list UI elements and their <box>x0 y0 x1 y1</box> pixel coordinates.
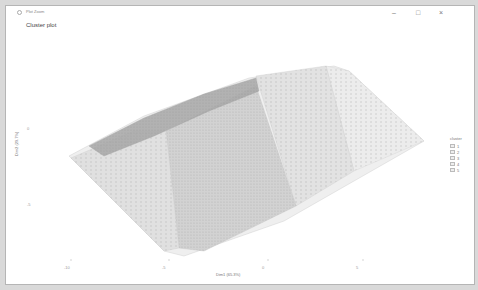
legend-title: cluster <box>450 136 478 141</box>
y-tick: -5 <box>27 202 31 207</box>
legend-key <box>450 144 455 148</box>
x-tick: 0 <box>262 265 264 270</box>
legend-key <box>450 168 455 172</box>
app-icon <box>17 10 22 15</box>
maximize-button[interactable]: □ <box>413 8 423 18</box>
legend: cluster 1 2 3 4 5 <box>450 136 478 173</box>
chart-title: Cluster plot <box>26 22 56 28</box>
close-button[interactable]: × <box>436 8 446 18</box>
plot-zoom-window: Plot Zoom – □ × Cluster plot <box>5 5 475 285</box>
cluster-plot-area <box>34 36 444 261</box>
legend-key <box>450 156 455 160</box>
x-tick: 5 <box>356 265 358 270</box>
minimize-button[interactable]: – <box>389 8 399 18</box>
legend-key <box>450 150 455 154</box>
title-bar: Plot Zoom – □ × <box>6 6 474 20</box>
y-axis-label: Dim2 (29.7%) <box>14 132 19 156</box>
x-axis-label: Dim1 (65.3%) <box>216 272 240 277</box>
legend-item: 5 <box>450 167 478 173</box>
window-title: Plot Zoom <box>26 9 44 14</box>
legend-key <box>450 162 455 166</box>
x-tick: -10 <box>64 265 70 270</box>
screen-background: Plot Zoom – □ × Cluster plot <box>0 0 478 290</box>
x-tick: -5 <box>162 265 166 270</box>
y-tick: 0 <box>27 126 29 131</box>
